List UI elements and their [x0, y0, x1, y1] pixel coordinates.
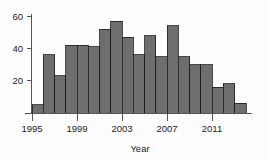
bar [88, 47, 99, 113]
bar [235, 103, 246, 113]
y-tick-label-20: 20 [12, 75, 23, 86]
bar [223, 84, 234, 113]
bar [156, 57, 167, 113]
bar [122, 37, 133, 113]
x-tick-label-1995: 1995 [21, 123, 42, 134]
bar [145, 36, 156, 113]
bar [43, 55, 54, 113]
bar [100, 29, 111, 113]
bar [201, 65, 212, 113]
x-tick-label-1999: 1999 [66, 123, 87, 134]
x-axis: 1995 1999 2003 2007 2011 [21, 114, 252, 135]
x-tick-label-2007: 2007 [156, 123, 177, 134]
bar [167, 26, 178, 113]
y-tick-label-60: 60 [12, 11, 23, 22]
x-tick-label-2011: 2011 [202, 123, 222, 134]
histogram-chart: 20 40 60 1995 1999 2003 2007 2011 Year [0, 0, 269, 160]
bar [77, 45, 88, 113]
y-axis: 20 40 60 [12, 11, 31, 114]
bar [66, 45, 77, 113]
bar [190, 65, 201, 113]
bar [178, 57, 189, 113]
bar [32, 105, 43, 113]
bars-group [32, 21, 246, 113]
bar [55, 76, 66, 113]
bar [111, 21, 122, 113]
bar [133, 55, 144, 113]
chart-canvas: 20 40 60 1995 1999 2003 2007 2011 Year [0, 0, 269, 160]
x-tick-label-2003: 2003 [111, 123, 132, 134]
y-tick-label-40: 40 [12, 43, 23, 54]
bar [212, 87, 223, 113]
x-axis-title: Year [130, 143, 149, 154]
